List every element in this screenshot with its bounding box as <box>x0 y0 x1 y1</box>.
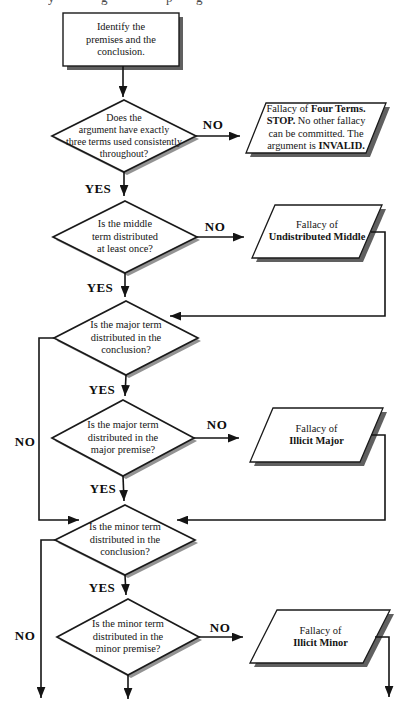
yes-label-d5: YES <box>82 580 122 596</box>
clipped-text-fragment: g <box>196 0 208 5</box>
yes-label-d1: YES <box>78 181 118 197</box>
arrow-no-d5-continue-down <box>41 540 55 698</box>
clipped-text-fragment: y <box>48 0 60 5</box>
decision-major-premise-text: Is the major term distributed in the maj… <box>52 402 194 474</box>
clipped-text-fragment: g <box>101 0 113 5</box>
arrow-yes-d4-to-d5 <box>123 476 124 501</box>
no-label-d5-left: NO <box>5 628 45 644</box>
no-label-d1: NO <box>193 117 233 133</box>
no-label-d4: NO <box>197 417 237 433</box>
start-node-text: Identify the premises and the conclusion… <box>63 15 179 65</box>
fallacy-undistributed-middle-text: Fallacy of Undistributed Middle <box>254 206 380 256</box>
decision-minor-premise-text: Is the minor term distributed in the min… <box>57 601 199 673</box>
no-label-d6: NO <box>200 620 240 636</box>
yes-label-d3: YES <box>82 382 122 398</box>
flowchart-page: y g p g <box>0 0 412 722</box>
yes-label-d2: YES <box>80 280 120 296</box>
decision-middle-term-text: Is the middle term distributed at least … <box>53 202 197 272</box>
decision-major-conclusion-text: Is the major term distributed in the con… <box>54 303 198 373</box>
fallacy-illicit-minor-text: Fallacy of Illicit Minor <box>258 611 383 663</box>
decision-minor-conclusion-text: Is the minor term distributed in the con… <box>55 506 195 574</box>
decision-three-terms-text: Does the argument have exactly three ter… <box>49 102 199 170</box>
no-label-d3-left: NO <box>5 434 45 450</box>
arrow-yes-d5-to-d6 <box>125 575 126 595</box>
arrow-yes-d3-to-d4 <box>125 375 126 396</box>
clipped-text-fragment: p <box>166 0 178 5</box>
fallacy-four-terms-text: Fallacy of Four Terms. STOP. No other fa… <box>250 102 382 153</box>
fallacy-illicit-major-text: Fallacy of Illicit Major <box>254 409 379 461</box>
no-label-d2: NO <box>195 219 235 235</box>
yes-label-d4: YES <box>83 481 123 497</box>
